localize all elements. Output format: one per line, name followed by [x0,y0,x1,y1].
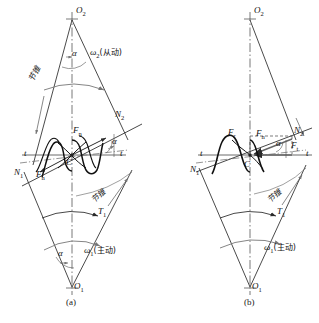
label-alpha-top-a: α [72,48,77,58]
label-fn-b: Fn [256,129,265,140]
cone2-right-edge-b [250,20,296,140]
alpha-arc-top-a [62,62,86,69]
label-n2-a: N2 [115,110,124,121]
pitch-line-b [196,150,306,163]
diagram-canvas [0,0,319,323]
label-n2-b: N2 [294,126,303,137]
caption-b: (b) [244,297,255,307]
label-torque-a: T1 [98,207,106,218]
cone1-right-edge-b [250,165,306,287]
label-omega1-a: ω1(主动) [84,246,116,257]
label-tangent-left-a: t [24,149,27,158]
cone1-left-edge-a [24,172,72,287]
label-apex-o2-a: O2 [76,6,86,17]
label-ft-b: Ft [291,141,298,152]
caption-a: (a) [66,297,76,307]
torque-arc-a [42,211,98,218]
label-tangent-left-b: t [200,149,203,158]
label-fn-lower-a: Fn [36,170,45,181]
label-apex-o1-b: O1 [252,282,262,293]
label-pitch-point-b: C [244,160,250,169]
torque-arc-b [220,211,276,218]
label-n1-a: N1 [14,168,23,179]
panel-a-geometry [20,12,142,295]
label-pitch-point-a: C [66,158,72,167]
label-alpha-bottom-a: α [58,248,63,258]
label-tangent-right-b: t [306,149,309,158]
label-fr-b: Fr [228,128,236,139]
label-apex-o2-b: O2 [254,6,264,17]
label-n1-b: N1 [190,165,199,176]
label-alpha-mid-a: α [112,136,117,146]
label-torque-b: T1 [277,207,285,218]
pitch-point-marker-b [248,153,251,156]
label-omega1-b: ω1(主动) [264,243,296,254]
label-apex-o1-a: O1 [74,282,84,293]
label-tangent-right-a: t [120,149,123,158]
label-omega2-a: ω2(从动) [90,48,122,59]
label-alpha-mid-b: α [276,138,281,148]
cone1-left-edge-b [199,168,250,287]
cone2-left-edge-a [33,20,72,165]
bevel-gear-force-diagram: O2 O1 α ω2(从动) N2 N1 t t Fn Fn α C T1 α … [0,0,319,323]
label-fn-upper-a: Fn [73,126,82,137]
alpha-arc-bottom-a [56,257,74,268]
cone2-right-edge-a [72,20,128,140]
cone-leader-lower-a [108,178,128,206]
